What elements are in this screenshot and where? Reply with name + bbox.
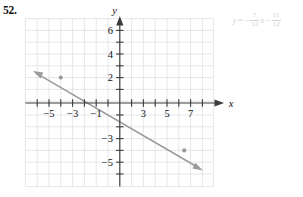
equation-slope-denominator: 12 — [250, 21, 259, 29]
y-tick-label-4: 4 — [108, 49, 114, 60]
coordinate-plane-svg: −5 −3 −1 3 5 7 6 4 2 −3 −5 y x — [0, 0, 240, 197]
x-tick-label-3: 3 — [141, 108, 146, 119]
equation-first-minus-sign: − — [244, 16, 249, 25]
plotted-point-b — [182, 148, 186, 152]
x-tick-label-5: 5 — [164, 108, 169, 119]
x-tick-label--5: −5 — [43, 108, 54, 119]
worksheet-page: 52. — [0, 0, 303, 197]
y-tick-label-6: 6 — [108, 25, 113, 36]
x-tick-label--3: −3 — [67, 108, 78, 119]
equation-slope-numerator: 7 — [252, 12, 258, 20]
equation-equals-sign: = — [238, 16, 243, 25]
equation-intercept-denominator: 12 — [272, 21, 281, 29]
y-axis-label: y — [111, 5, 117, 16]
x-tick-label--1: −1 — [91, 108, 102, 119]
equation-row: y = − 7 12 x − 11 12 — [232, 7, 302, 33]
plotted-point-a — [59, 76, 63, 80]
equation-intercept-fraction: 11 12 — [272, 12, 281, 28]
y-tick-label-2: 2 — [108, 72, 113, 83]
equation-intercept-numerator: 11 — [272, 12, 281, 20]
equation-lhs: y — [233, 16, 237, 25]
x-tick-label-7: 7 — [188, 108, 193, 119]
y-axis-arrowhead — [116, 16, 123, 26]
equation-variable-x: x — [260, 16, 264, 25]
plotted-line-group — [33, 71, 203, 171]
x-axis-label: x — [228, 98, 234, 109]
line-arrowhead-lower-right — [192, 163, 202, 171]
equation-second-minus-sign: − — [266, 16, 271, 25]
equation-slope-fraction: 7 12 — [250, 12, 259, 28]
answer-equation: y = − 7 12 x − 11 12 — [232, 7, 302, 33]
x-axis-arrowhead — [215, 99, 225, 106]
coordinate-graph-figure: −5 −3 −1 3 5 7 6 4 2 −3 −5 y x — [0, 0, 240, 197]
y-tick-label--3: −3 — [102, 133, 113, 144]
y-tick-label--5: −5 — [102, 157, 113, 168]
x-tick-labels: −5 −3 −1 3 5 7 — [43, 108, 193, 119]
